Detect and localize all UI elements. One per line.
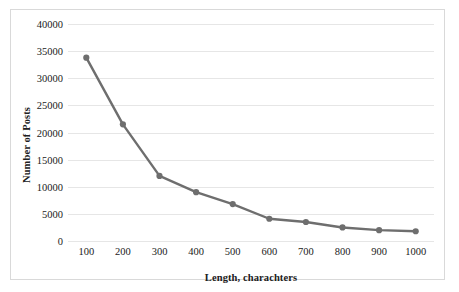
- data-point-marker: [376, 227, 382, 233]
- x-tick-label: 400: [188, 246, 204, 257]
- x-tick-label: 600: [261, 246, 277, 257]
- x-tick-label: 200: [115, 246, 131, 257]
- y-tick-label: 5000: [42, 208, 63, 219]
- x-tick-label: 100: [78, 246, 94, 257]
- y-tick-label: 25000: [37, 100, 63, 111]
- y-tick-label: 10000: [37, 181, 63, 192]
- data-point-marker: [83, 55, 89, 61]
- data-point-marker: [413, 228, 419, 234]
- chart-figure: Number of Posts 050001000015000200002500…: [10, 9, 445, 280]
- y-tick-label: 15000: [37, 154, 63, 165]
- x-tick-label: 1000: [405, 246, 426, 257]
- y-axis-title: Number of Posts: [21, 70, 37, 220]
- x-tick-label: 800: [335, 246, 351, 257]
- y-tick-label: 0: [58, 236, 63, 247]
- data-point-marker: [303, 219, 309, 225]
- plot-area: 0500010000150002000025000300003500040000…: [68, 24, 434, 241]
- data-point-marker: [156, 173, 162, 179]
- data-point-marker: [120, 121, 126, 127]
- gridline: [68, 241, 434, 242]
- data-point-marker: [339, 224, 345, 230]
- x-tick-label: 700: [298, 246, 314, 257]
- x-tick-label: 300: [152, 246, 168, 257]
- series-line: [86, 58, 415, 232]
- data-series-line: [68, 24, 434, 241]
- data-point-marker: [230, 201, 236, 207]
- y-tick-label: 20000: [37, 127, 63, 138]
- x-axis-title: Length, charachters: [68, 272, 434, 283]
- y-tick-label: 35000: [37, 46, 63, 57]
- x-tick-label: 900: [371, 246, 387, 257]
- data-point-marker: [266, 216, 272, 222]
- y-tick-label: 40000: [37, 19, 63, 30]
- data-point-marker: [193, 189, 199, 195]
- x-tick-label: 500: [225, 246, 241, 257]
- y-tick-label: 30000: [37, 73, 63, 84]
